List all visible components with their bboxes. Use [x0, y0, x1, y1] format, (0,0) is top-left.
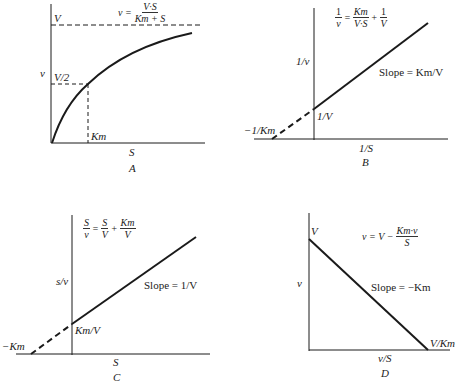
eq-t2-den: V: [124, 229, 132, 240]
panel-c-x-label: S: [113, 357, 119, 368]
panel-c-equation: Sv= SV+ KmV: [81, 217, 138, 240]
panel-a-half-v-label: V/2: [54, 72, 69, 83]
panel-b-y-intercept-label: 1/V: [317, 111, 332, 122]
eq-t1-num: Km: [353, 6, 369, 18]
panel-b-y-label: 1/v: [296, 56, 309, 67]
panel-c-y-label: s/v: [56, 276, 68, 287]
eq-t1-den: V: [101, 229, 109, 240]
panel-c-y-intercept-label: Km/V: [75, 325, 100, 336]
eq-numerator: V·S: [142, 1, 158, 13]
panel-b-x-intercept-label: −1/Km: [244, 125, 275, 136]
panel-b-caption: B: [362, 157, 369, 168]
panel-d-slope-label: Slope = −Km: [371, 282, 430, 293]
eq-lhs-den: v: [335, 18, 341, 29]
panel-a-caption: A: [129, 163, 136, 174]
panel-c-slope-label: Slope = 1/V: [144, 280, 197, 291]
eq-lhs-num: S: [83, 217, 90, 229]
panel-d-y-intercept-label: V: [311, 226, 318, 237]
eq-frac-num: Km·v: [396, 225, 419, 237]
eq-t1-num: S: [101, 217, 108, 229]
panel-c-extrapolation: [31, 324, 72, 354]
eq-lhs-den: v: [83, 229, 89, 240]
panel-b-x-label: 1/S: [359, 143, 373, 154]
panel-a-km-label: Km: [91, 131, 106, 142]
panel-b-equation: 1v= KmV·S+ 1V: [333, 6, 390, 29]
eq-lhs: v: [362, 231, 366, 242]
kinetics-plots-svg: [0, 0, 459, 385]
eq-t1: V: [378, 231, 384, 242]
panel-c-caption: C: [113, 372, 120, 383]
eq-t1-den: V·S: [353, 18, 369, 29]
eq-lhs: v: [118, 7, 122, 18]
panel-d-equation: v = V − Km·vS: [362, 225, 420, 248]
eq-t2-den: V: [379, 18, 387, 29]
eq-frac-den: S: [403, 237, 410, 248]
panel-d-x-intercept-label: V/Km: [430, 338, 455, 349]
panel-d-caption: D: [381, 368, 389, 379]
panel-a-plot: [51, 4, 205, 143]
panel-a-asymptote-label: V: [54, 13, 61, 24]
panel-a-equation: v = V·SKm + S: [118, 1, 168, 24]
panel-a-x-label: S: [129, 147, 135, 158]
eq-lhs-num: 1: [335, 6, 342, 18]
panel-c-x-intercept-label: −Km: [2, 341, 25, 352]
panel-d-x-label: v/S: [378, 353, 391, 364]
panel-b-extrapolation: [272, 109, 314, 139]
panel-d-line: [309, 239, 428, 350]
eq-denominator: Km + S: [134, 13, 167, 24]
eq-t2-num: Km: [120, 217, 136, 229]
panel-a-y-label: v: [40, 68, 45, 79]
panel-d-y-label: v: [297, 278, 302, 289]
panel-a-curve: [52, 33, 192, 143]
eq-t2-num: 1: [380, 6, 387, 18]
panel-b-slope-label: Slope = Km/V: [379, 67, 443, 78]
